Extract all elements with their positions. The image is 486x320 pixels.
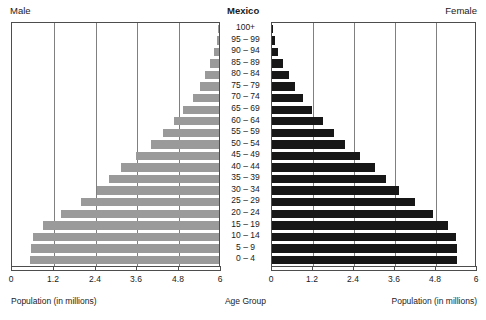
axis-tick — [394, 266, 395, 271]
age-group-label: 40 – 44 — [221, 161, 270, 173]
age-group-label: 10 – 14 — [221, 230, 270, 242]
bar-female-9599 — [272, 36, 275, 44]
axis-tick — [178, 266, 179, 271]
bar-row — [272, 69, 475, 81]
age-group-label: 25 – 29 — [221, 195, 270, 207]
bar-row — [272, 35, 475, 47]
bar-row — [272, 173, 475, 185]
axis-tick — [95, 266, 96, 271]
age-group-label: 50 – 54 — [221, 138, 270, 150]
bar-row — [12, 46, 219, 58]
bar-row — [12, 92, 219, 104]
age-group-label: 95 – 99 — [221, 34, 270, 46]
bar-female-1519 — [272, 221, 448, 229]
female-axis-title: Population (in millions) — [391, 296, 477, 307]
female-legend-label: Female — [445, 5, 477, 17]
bar-female-3539 — [272, 175, 386, 183]
age-group-label: 45 – 49 — [221, 149, 270, 161]
bar-row — [272, 231, 475, 243]
bar-row — [12, 35, 219, 47]
age-group-label: 65 – 69 — [221, 103, 270, 115]
bar-row — [272, 208, 475, 220]
axis-tick-label: 3.6 — [130, 274, 142, 285]
age-group-label: 5 – 9 — [221, 242, 270, 254]
bar-male-5559 — [163, 129, 219, 137]
bar-row — [12, 81, 219, 93]
bar-row — [12, 220, 219, 232]
bar-female-4549 — [272, 152, 360, 160]
bar-row — [12, 23, 219, 35]
age-group-label: 60 – 64 — [221, 115, 270, 127]
bar-female-8589 — [272, 59, 283, 67]
axis-tick-label: 6 — [474, 274, 479, 285]
male-bar-rows — [12, 23, 219, 266]
age-group-label: 90 – 94 — [221, 45, 270, 57]
axis-tick-label: 1.2 — [306, 274, 318, 285]
axis-tick — [435, 266, 436, 271]
axis-tick — [353, 266, 354, 271]
axis-tick — [476, 266, 477, 271]
age-group-label: 100+ — [221, 22, 270, 34]
bar-male-6064 — [174, 117, 219, 125]
bar-male-9599 — [217, 36, 219, 44]
bar-male-1014 — [33, 233, 219, 241]
axis-tick-label: 2.4 — [347, 274, 359, 285]
bar-male-5054 — [151, 140, 219, 148]
bar-row — [272, 92, 475, 104]
bar-row — [12, 196, 219, 208]
bar-female-2024 — [272, 210, 433, 218]
bar-male-100+ — [218, 25, 219, 33]
axis-tick — [271, 266, 272, 271]
bar-row — [272, 150, 475, 162]
bar-male-8589 — [210, 59, 219, 67]
bar-female-100+ — [272, 25, 273, 33]
bar-row — [12, 173, 219, 185]
bar-female-6064 — [272, 117, 323, 125]
bar-male-04 — [30, 256, 219, 264]
bar-female-1014 — [272, 233, 456, 241]
bar-female-5559 — [272, 129, 334, 137]
axis-tick-label: 1.2 — [47, 274, 59, 285]
axis-tick-label: 0 — [269, 274, 274, 285]
bar-female-3034 — [272, 186, 399, 194]
bar-female-2529 — [272, 198, 415, 206]
bar-row — [272, 220, 475, 232]
male-axis-title: Population (in millions) — [11, 296, 97, 307]
female-axis-line — [271, 270, 476, 271]
axis-tick-label: 0 — [9, 274, 14, 285]
axis-tick-label: 4.8 — [172, 274, 184, 285]
bar-female-7074 — [272, 94, 303, 102]
axis-tick-label: 2.4 — [89, 274, 101, 285]
age-group-label: 30 – 34 — [221, 184, 270, 196]
male-axis-line — [11, 270, 220, 271]
age-group-label: 55 – 59 — [221, 126, 270, 138]
female-bar-rows — [272, 23, 475, 266]
bar-row — [12, 150, 219, 162]
age-group-label: 15 – 19 — [221, 219, 270, 231]
axis-tick — [220, 266, 221, 271]
bar-row — [272, 162, 475, 174]
bar-row — [272, 81, 475, 93]
bar-female-6569 — [272, 106, 312, 114]
bar-row — [272, 127, 475, 139]
age-group-label: 75 – 79 — [221, 80, 270, 92]
bar-female-7579 — [272, 82, 295, 90]
bar-male-8084 — [205, 71, 219, 79]
axis-tick — [53, 266, 54, 271]
bar-row — [272, 104, 475, 116]
center-axis-title: Age Group — [221, 296, 270, 307]
bar-row — [12, 69, 219, 81]
bar-male-1519 — [43, 221, 219, 229]
bar-male-3034 — [97, 186, 219, 194]
female-plot-panel — [271, 22, 476, 267]
bar-male-7074 — [193, 94, 219, 102]
bar-row — [12, 185, 219, 197]
bar-row — [272, 23, 475, 35]
axis-tick — [312, 266, 313, 271]
bar-row — [272, 243, 475, 255]
bar-female-5054 — [272, 140, 345, 148]
age-group-label: 85 – 89 — [221, 57, 270, 69]
bar-row — [12, 116, 219, 128]
bar-row — [12, 208, 219, 220]
bar-male-3539 — [109, 175, 219, 183]
